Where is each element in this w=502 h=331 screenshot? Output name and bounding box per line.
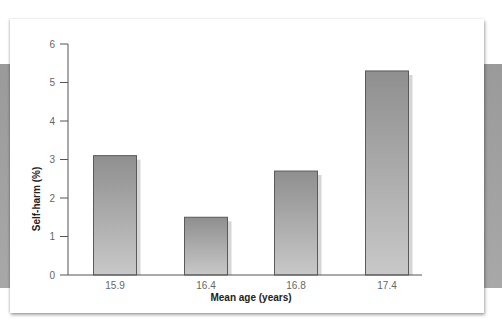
y-tick-label: 2: [49, 193, 55, 204]
bar-shadow: [137, 160, 141, 275]
x-tick-label: 17.4: [377, 280, 397, 291]
x-tick-label: 16.8: [286, 280, 306, 291]
bars: [94, 71, 413, 275]
y-axis-title: Self-harm (%): [31, 167, 42, 231]
y-axis: 0123456: [49, 39, 68, 281]
y-tick-label: 1: [49, 231, 55, 242]
y-tick-label: 0: [49, 270, 55, 281]
bar: [94, 156, 137, 275]
bar-shadow: [318, 175, 322, 275]
x-tick-label: 15.9: [105, 280, 125, 291]
y-tick-label: 6: [49, 39, 55, 50]
bar: [366, 71, 409, 275]
x-axis: 15.916.416.817.4: [68, 275, 422, 291]
bar-chart: 0123456 15.916.416.817.4 Mean age (years…: [0, 0, 502, 331]
bar: [275, 171, 318, 275]
bar-shadow: [409, 75, 413, 275]
bar: [185, 217, 228, 275]
x-axis-title: Mean age (years): [210, 292, 291, 303]
y-tick-label: 4: [49, 116, 55, 127]
bar-shadow: [228, 221, 232, 275]
y-tick-label: 3: [49, 154, 55, 165]
y-tick-label: 5: [49, 77, 55, 88]
x-tick-label: 16.4: [196, 280, 216, 291]
